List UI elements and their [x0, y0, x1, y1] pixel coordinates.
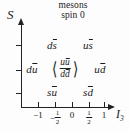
x-tick-label-neg-one: −1: [33, 110, 43, 120]
x-tick-label-half: 12: [86, 110, 92, 126]
uubar-row: uu: [59, 58, 71, 68]
x-axis-tick: [38, 102, 39, 108]
y-axis-line: [21, 24, 22, 108]
state-s-ubar: su: [47, 86, 57, 98]
figure-title: mesons spin 0: [38, 1, 108, 21]
x-axis-tick: [72, 102, 73, 108]
state-u-sbar: us: [83, 39, 93, 51]
x-axis-arrow-icon: [108, 104, 115, 110]
uubar-over-ddbar-stack: uu dd: [59, 58, 72, 80]
x-tick-label-one: 1: [102, 110, 107, 120]
x-axis-tick: [104, 102, 105, 108]
x-tick-label-neg-half: −12: [50, 110, 61, 126]
x-axis-tick: [89, 102, 90, 108]
right-angle-bracket-icon: ⟩: [72, 62, 78, 76]
x-axis-label-isospin: I3: [116, 107, 124, 123]
state-d-sbar: ds: [47, 39, 57, 51]
left-angle-bracket-icon: ⟨: [52, 62, 58, 76]
y-axis-label-strangeness: S: [7, 7, 14, 23]
x-tick-label-zero: 0: [70, 110, 75, 120]
y-axis-tick: [16, 70, 22, 71]
state-s-dbar: sd: [83, 86, 93, 98]
state-u-dbar: ud: [94, 63, 105, 75]
x-axis-tick: [55, 102, 56, 108]
y-axis-tick: [16, 45, 22, 46]
state-uubar-ddbar-doublet: ⟨ uu dd ⟩: [51, 58, 80, 80]
meson-nonet-weight-diagram: mesons spin 0 −1 −12 0 12 1 S I3 ds us d…: [0, 0, 130, 131]
ddbar-row: dd: [59, 70, 71, 80]
x-axis-line: [21, 107, 110, 108]
y-axis-tick: [16, 93, 22, 94]
title-line-spin: spin 0: [38, 11, 108, 21]
y-axis-arrow-icon: [18, 18, 24, 25]
state-d-ubar: du: [26, 63, 37, 75]
